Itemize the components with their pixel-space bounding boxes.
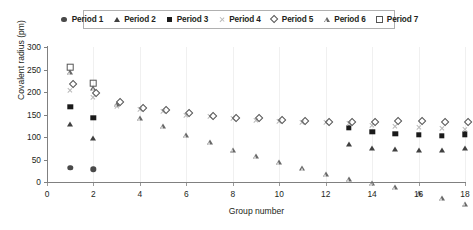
data-point [160, 124, 166, 129]
gridline-vertical [140, 47, 141, 182]
data-point [206, 113, 212, 119]
y-tick-label: 50 [15, 155, 41, 165]
data-point [439, 147, 445, 152]
x-tick-label: 12 [315, 189, 337, 199]
legend-item-label: Period 6 [334, 15, 366, 24]
data-point [393, 131, 398, 136]
x-tick-mark [279, 183, 280, 186]
x-tick-label: 8 [222, 189, 244, 199]
data-point [207, 140, 213, 145]
y-tick-mark [44, 70, 47, 71]
x-tick-label: 0 [36, 189, 58, 199]
data-point [160, 108, 166, 114]
x-tick-label: 4 [129, 189, 151, 199]
data-point [346, 125, 351, 130]
data-point [67, 69, 73, 74]
data-point [68, 165, 73, 170]
gridline-vertical [93, 47, 94, 182]
y-tick-mark [44, 92, 47, 93]
y-tick-mark [44, 115, 47, 116]
data-point [392, 185, 398, 190]
data-point [346, 142, 352, 147]
legend-item-5[interactable]: Period 5 [270, 15, 314, 24]
legend-item-label: Period 7 [387, 15, 419, 24]
x-tick-mark [465, 183, 466, 186]
y-tick-label: 100 [15, 132, 41, 142]
gridline-vertical [186, 47, 187, 182]
data-point [162, 106, 171, 115]
legend-item-label: Period 4 [229, 15, 261, 24]
data-point [439, 125, 445, 131]
y-tick-label: 150 [15, 110, 41, 120]
data-point [299, 118, 305, 124]
data-point [67, 87, 73, 93]
y-tick-mark [44, 47, 47, 48]
x-tick-label: 2 [82, 189, 104, 199]
data-point [299, 166, 305, 171]
x-tick-mark [140, 183, 141, 186]
y-tick-mark [44, 160, 47, 161]
data-point [67, 121, 73, 126]
data-point [253, 116, 259, 122]
data-point [69, 79, 78, 88]
data-point [440, 117, 449, 126]
gridline-vertical [465, 47, 466, 182]
data-point [394, 116, 403, 125]
gridline-vertical [233, 47, 234, 182]
legend-item-1[interactable]: Period 1 [60, 15, 104, 24]
filled-triangle-icon [112, 15, 121, 24]
data-point [392, 123, 398, 129]
legend-item-6[interactable]: Period 6 [322, 15, 366, 24]
open-diamond-icon [270, 15, 279, 24]
x-tick-label: 6 [175, 189, 197, 199]
x-axis-title: Group number [47, 206, 466, 216]
gridline-vertical [372, 47, 373, 182]
legend-item-label: Period 2 [124, 15, 156, 24]
gridline-vertical [279, 47, 280, 182]
open-square-icon [375, 15, 384, 24]
x-tick-label: 16 [408, 189, 430, 199]
cross-x-icon [217, 15, 226, 24]
filled-circle-icon [60, 15, 69, 24]
x-tick-mark [47, 183, 48, 186]
legend-item-4[interactable]: Period 4 [217, 15, 261, 24]
legend-item-label: Period 1 [72, 15, 104, 24]
data-point [68, 104, 73, 109]
x-tick-mark [186, 183, 187, 186]
data-point [115, 97, 124, 106]
data-point [67, 64, 74, 71]
data-point [208, 111, 217, 120]
x-tick-mark [372, 183, 373, 186]
data-point [255, 114, 264, 123]
chart-legend: Period 1Period 2Period 3Period 4Period 5… [83, 10, 395, 29]
x-tick-mark [326, 183, 327, 186]
gridline-vertical [419, 47, 420, 182]
x-tick-label: 18 [454, 189, 473, 199]
data-point [253, 153, 259, 158]
y-axis-title: Covalent radius (pm) [16, 0, 26, 125]
legend-item-2[interactable]: Period 2 [112, 15, 156, 24]
y-tick-label: 250 [15, 65, 41, 75]
scatter-chart: Period 1Period 2Period 3Period 4Period 5… [0, 0, 473, 230]
data-point [392, 147, 398, 152]
x-axis-line [47, 182, 466, 183]
x-tick-label: 10 [268, 189, 290, 199]
legend-item-7[interactable]: Period 7 [375, 15, 419, 24]
x-tick-mark [233, 183, 234, 186]
filled-square-icon [165, 15, 174, 24]
y-tick-mark [44, 137, 47, 138]
open-triangle-icon [322, 15, 331, 24]
gridline-vertical [326, 47, 327, 182]
legend-item-label: Period 5 [282, 15, 314, 24]
data-point [346, 120, 352, 126]
x-tick-mark [419, 183, 420, 186]
y-tick-label: 0 [15, 177, 41, 187]
data-point [439, 133, 444, 138]
plot-area [47, 47, 465, 182]
data-point [348, 118, 357, 127]
legend-item-3[interactable]: Period 3 [165, 15, 209, 24]
y-tick-label: 200 [15, 87, 41, 97]
data-point [346, 177, 352, 182]
data-point [301, 117, 310, 126]
x-tick-mark [93, 183, 94, 186]
